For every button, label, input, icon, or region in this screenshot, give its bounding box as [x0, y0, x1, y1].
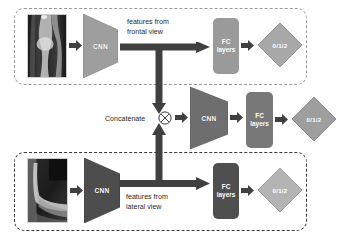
figure-canvas: CNN features from frontal view FC layers… — [0, 0, 352, 237]
arrow-frontal-fc-to-output — [241, 40, 254, 51]
frontal-fc-label-line2: layers — [217, 46, 235, 54]
frontal-cnn-block: CNN — [83, 14, 118, 78]
lateral-cnn-label: CNN — [95, 187, 110, 194]
lateral-fc-label-line1: FC — [222, 183, 231, 191]
frontal-fc-layers-block: FC layers — [213, 18, 239, 74]
lateral-output-label: 0/1/2 — [273, 187, 288, 194]
frontal-cnn-label: CNN — [93, 43, 108, 50]
lateral-output-diamond: 0/1/2 — [256, 166, 304, 214]
lateral-cnn-block: CNN — [84, 158, 120, 223]
arrow-fusion-fc-to-output — [275, 114, 288, 125]
fusion-fc-layers-block: FC layers — [246, 92, 273, 148]
lateral-fc-label-line2: layers — [217, 191, 235, 199]
lateral-feature-note: features from lateral view — [126, 192, 206, 213]
lateral-xray-image — [27, 158, 68, 223]
arrow-lateral-fc-to-output — [241, 185, 254, 196]
frontal-output-diamond: 0/1/2 — [256, 21, 304, 69]
fusion-output-label: 0/1/2 — [307, 116, 322, 123]
lateral-fc-layers-block: FC layers — [213, 163, 239, 219]
arrow-lateral-features-trunk — [120, 122, 210, 190]
frontal-xray-image — [27, 14, 67, 78]
fusion-fc-label-line1: FC — [255, 112, 264, 120]
fusion-cnn-label: CNN — [202, 115, 217, 122]
frontal-feature-note: features from frontal view — [127, 17, 207, 38]
arrow-fusion-cnn-to-fc — [230, 112, 243, 123]
fusion-fc-label-line2: layers — [250, 120, 268, 128]
frontal-output-label: 0/1/2 — [273, 42, 288, 49]
arrow-lateral-input-to-cnn — [70, 185, 83, 196]
frontal-fc-label-line1: FC — [222, 38, 231, 46]
fusion-output-diamond: 0/1/2 — [290, 95, 338, 143]
arrow-frontal-input-to-cnn — [69, 40, 82, 51]
